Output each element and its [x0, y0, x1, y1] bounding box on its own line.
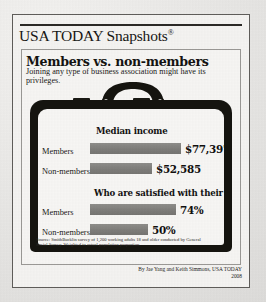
- row-label-non-members-income: Non-members: [42, 167, 90, 176]
- brand-title: USA TODAY Snapshots®: [19, 27, 245, 45]
- value-income-non-members: $52,585: [156, 163, 201, 175]
- value-satisfaction-members: 74%: [180, 204, 203, 216]
- byline-year: 2008: [60, 273, 242, 280]
- chart-area: Median income Members $77,397 Non-member…: [38, 109, 224, 245]
- source-note: Source: SmithBucklin survey of 1,200 wor…: [36, 237, 204, 247]
- row-label-members-income: Members: [42, 147, 74, 156]
- brand-title-text: USA TODAY Snapshots: [19, 27, 168, 44]
- title-divider: [20, 24, 242, 26]
- briefcase-body: Median income Members $77,397 Non-member…: [30, 100, 232, 252]
- section-title-median-income: Median income: [96, 126, 168, 136]
- value-satisfaction-non-members: 50%: [152, 224, 175, 236]
- bar-satisfaction-non-members: [90, 224, 148, 235]
- byline: By Jae Yang and Keith Simmons, USA TODAY…: [60, 266, 242, 279]
- row-label-members-satisfaction: Members: [42, 208, 74, 217]
- bar-satisfaction-members: [90, 204, 176, 215]
- page-background: USA TODAY Snapshots® Members vs. non-mem…: [0, 0, 266, 302]
- value-income-members: $77,397: [185, 143, 224, 155]
- registered-trademark-icon: ®: [168, 28, 174, 37]
- bar-income-non-members: [90, 163, 152, 174]
- bar-income-members: [90, 143, 181, 154]
- byline-authors: By Jae Yang and Keith Simmons, USA TODAY: [60, 266, 242, 273]
- section-title-job-satisfaction: Who are satisfied with their job:: [94, 188, 224, 198]
- row-label-non-members-satisfaction: Non-members: [42, 228, 90, 237]
